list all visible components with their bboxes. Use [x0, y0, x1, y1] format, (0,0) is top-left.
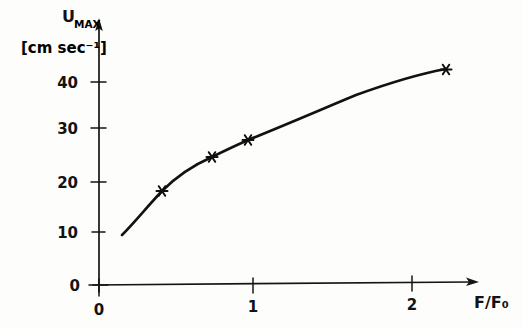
y-tick-label-0: 0 — [70, 277, 80, 295]
y-tick-label-40: 40 — [57, 74, 78, 92]
y-axis — [89, 18, 108, 292]
data-point-marker — [441, 65, 452, 75]
y-axis-title-subscript: MAX — [74, 18, 101, 30]
x-axis-title: F/F₀ — [474, 293, 509, 312]
y-tick-label-10: 10 — [57, 224, 78, 242]
data-markers — [157, 65, 452, 196]
y-tick-label-30: 30 — [57, 120, 78, 138]
y-tick-label-20: 20 — [57, 174, 78, 192]
x-tick-label-1: 1 — [248, 298, 258, 316]
x-tick-label-0: 0 — [94, 301, 104, 319]
x-axis-line — [93, 282, 470, 285]
data-point-marker — [207, 152, 218, 162]
data-curve-umax — [122, 69, 446, 235]
y-axis-unit-label: [cm sec⁻¹] — [21, 39, 107, 57]
y-axis-title: U MAX [cm sec⁻¹] — [21, 7, 107, 57]
data-point-marker — [243, 135, 254, 145]
chart-plot-area: 40 30 20 10 0 0 1 2 U MAX [cm sec⁻¹] F/F… — [0, 0, 523, 329]
chart-figure: 40 30 20 10 0 0 1 2 U MAX [cm sec⁻¹] F/F… — [0, 0, 523, 329]
x-axis — [93, 276, 479, 296]
x-tick-label-2: 2 — [407, 296, 417, 314]
